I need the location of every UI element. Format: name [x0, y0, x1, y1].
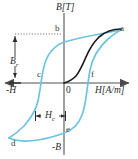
origin-label: 0 — [66, 86, 71, 96]
point-label-a: a — [120, 24, 124, 33]
point-label-d: d — [11, 139, 16, 148]
x-axis-negative-label: -H — [6, 86, 16, 96]
coercivity-symbol: H — [45, 110, 52, 120]
point-label-b: b — [55, 24, 60, 33]
point-label-c: c — [37, 70, 41, 79]
y-axis-negative-label: -B — [52, 143, 61, 153]
coercivity-label: Hc — [45, 111, 55, 122]
descending-branch-curve — [9, 30, 121, 138]
x-axis-label: H[A/m] — [95, 86, 125, 96]
y-axis-label: B[T] — [56, 3, 74, 13]
point-label-f: f — [91, 70, 94, 79]
hysteresis-loop-figure: B[T] -B H[A/m] -H 0 Br Hc a b c d e f — [0, 0, 138, 159]
figure-canvas — [0, 0, 138, 159]
coercivity-subscript: c — [52, 115, 55, 122]
remanence-subscript: r — [16, 61, 19, 68]
remanence-label: Br — [10, 57, 18, 68]
point-label-e: e — [66, 125, 70, 134]
